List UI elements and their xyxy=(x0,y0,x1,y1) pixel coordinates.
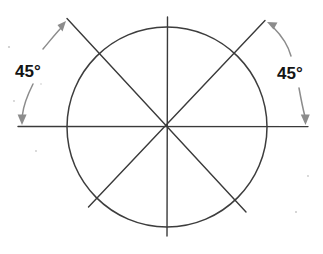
diagonal-up-right-line xyxy=(89,21,266,208)
paper-specks xyxy=(8,46,309,213)
diagram-canvas: 45° 45° xyxy=(0,0,323,254)
diagonal-up-left-line xyxy=(67,19,246,213)
left-angle-label: 45° xyxy=(15,63,41,80)
right-upper-arrow xyxy=(267,22,291,56)
left-upper-arrow xyxy=(43,21,66,49)
left-lower-arrow xyxy=(18,84,33,125)
right-lower-arrow xyxy=(299,88,310,125)
right-angle-label: 45° xyxy=(277,65,303,82)
geometry-drawing xyxy=(0,0,323,254)
